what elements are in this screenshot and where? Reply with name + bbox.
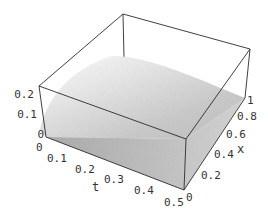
t-tick: 0.2 xyxy=(75,163,95,176)
x-tick: 0.2 xyxy=(201,169,221,182)
x-tick: 0.8 xyxy=(237,110,257,123)
x-axis-label: x xyxy=(237,142,244,156)
surface-plot-3d: 0.2 0.1 0 0 0.1 0.2 0.3 0.4 0.5 t 0 0.2 … xyxy=(0,0,268,218)
x-tick: 0.4 xyxy=(214,148,234,161)
t-tick: 0.1 xyxy=(47,152,67,165)
z-axis-ticks: 0.2 0.1 0 xyxy=(14,88,44,141)
t-axis-label: t xyxy=(92,180,99,194)
x-tick: 0 xyxy=(186,191,193,204)
z-tick: 0 xyxy=(37,128,44,141)
t-tick: 0.3 xyxy=(104,173,124,186)
z-tick: 0.1 xyxy=(17,108,37,121)
x-tick: 0.6 xyxy=(226,128,246,141)
t-tick: 0.4 xyxy=(134,184,154,197)
z-tick: 0.2 xyxy=(14,88,34,101)
x-tick: 1 xyxy=(247,94,254,107)
t-tick: 0 xyxy=(36,141,43,154)
t-tick: 0.5 xyxy=(164,196,184,209)
